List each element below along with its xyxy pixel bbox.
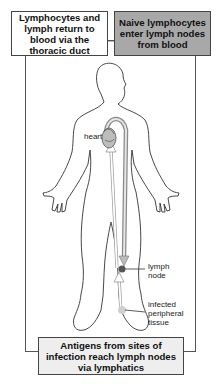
label-heart: heart bbox=[84, 132, 102, 141]
box-antigens-text: Antigens from sites of infection reach l… bbox=[39, 340, 183, 373]
box-thoracic-duct: Lymphocytes and lymph return to blood vi… bbox=[11, 11, 108, 56]
body-outline bbox=[43, 63, 179, 330]
box-antigens: Antigens from sites of infection reach l… bbox=[38, 337, 184, 375]
box-thoracic-duct-text: Lymphocytes and lymph return to blood vi… bbox=[12, 12, 107, 56]
human-body-figure bbox=[0, 0, 220, 387]
label-lymph-node: lymph node bbox=[148, 262, 169, 280]
heart-icon bbox=[102, 128, 116, 148]
lymph-arrow-up-icon-lower bbox=[114, 272, 124, 282]
infected-tissue-pointer bbox=[125, 310, 145, 312]
lymph-node-icon bbox=[119, 266, 126, 273]
label-infected-tissue: infected peripheral tissue bbox=[148, 300, 184, 327]
blood-arrow-icon bbox=[119, 256, 129, 266]
box-naive-lymphocytes: Naive lymphocytes enter lymph nodes from… bbox=[114, 11, 211, 56]
infected-tissue-icon bbox=[118, 306, 126, 314]
box-naive-lymphocytes-text: Naive lymphocytes enter lymph nodes from… bbox=[115, 17, 210, 50]
